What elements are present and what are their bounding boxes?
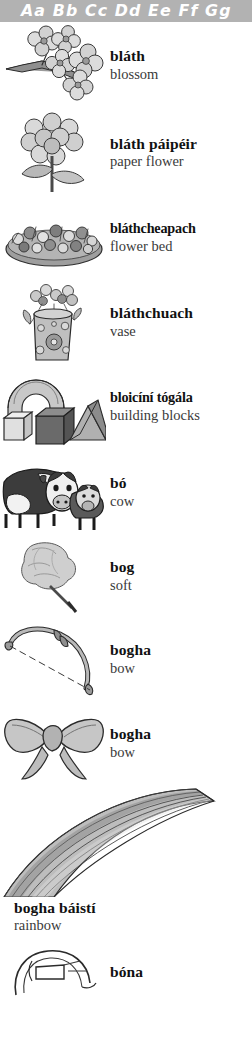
entry-blathcheapach: bláthcheapach flower bed: [0, 197, 252, 279]
entry-bo: bó cow: [0, 449, 252, 535]
cotton-wool-illustration: [0, 538, 108, 614]
flower-bed-illustration: [0, 203, 108, 273]
entry-text: bóna: [108, 937, 252, 980]
entry-term: bóna: [110, 963, 250, 980]
entry-term: bláthcheapach: [110, 221, 250, 237]
entry-text: bláth páipéir paper flower: [108, 135, 252, 170]
entry-text: bláthchuach vase: [108, 304, 252, 339]
blossom-branch-illustration: [0, 25, 108, 105]
entry-gloss: soft: [110, 577, 250, 594]
entry-bloicini-togala: bloicíní tógála building blocks: [0, 365, 252, 449]
entry-blathchuach: bláthchuach vase: [0, 279, 252, 365]
entry-gloss: flower bed: [110, 238, 250, 255]
alphabet-header: Aa Bb Cc Dd Ee Ff Gg: [0, 0, 252, 22]
entry-text: bog soft: [108, 558, 252, 593]
entry-gloss: vase: [110, 323, 250, 340]
paper-flower-illustration: [0, 110, 108, 196]
rainbow-illustration: [0, 785, 252, 897]
entry-term: bloicíní tógála: [110, 390, 250, 406]
entry-gloss: rainbow: [14, 917, 250, 934]
entry-term: bláthchuach: [110, 304, 250, 321]
entry-bogha-baisti: bogha báistí rainbow: [0, 785, 252, 937]
entry-blath-paipeir: bláth páipéir paper flower: [0, 108, 252, 197]
entry-gloss: blossom: [110, 66, 250, 83]
entry-bogha-archery: bogha bow: [0, 617, 252, 701]
entry-term: bogha: [110, 641, 250, 658]
entry-term: bogha: [110, 725, 250, 742]
entry-blath: bláth blossom: [0, 22, 252, 108]
entry-list: bláth blossom: [0, 22, 252, 997]
entry-term: bláth: [110, 47, 250, 64]
alphabet-letters: Aa Bb Cc Dd Ee Ff Gg: [21, 2, 232, 20]
vase-illustration: [0, 280, 108, 364]
entry-bona: bóna: [0, 937, 252, 997]
entry-text: bogha bow: [108, 641, 252, 676]
archery-bow-illustration: [0, 620, 108, 698]
entry-term: bó: [110, 474, 250, 491]
entry-gloss: bow: [110, 744, 250, 761]
building-blocks-illustration: [0, 368, 108, 446]
entry-term: bogha báistí: [14, 899, 250, 916]
entry-term: bláth páipéir: [110, 135, 250, 152]
entry-gloss: bow: [110, 660, 250, 677]
entry-bog: bog soft: [0, 535, 252, 617]
ribbon-bow-illustration: [0, 703, 108, 783]
entry-gloss: paper flower: [110, 153, 250, 170]
cow-illustration: [0, 452, 108, 532]
entry-text: bogha báistí rainbow: [0, 899, 252, 934]
entry-bogha-ribbon: bogha bow: [0, 701, 252, 785]
collar-illustration: [0, 937, 108, 997]
entry-text: bláth blossom: [108, 47, 252, 82]
entry-text: bó cow: [108, 474, 252, 509]
dictionary-page: Aa Bb Cc Dd Ee Ff Gg: [0, 0, 252, 1042]
entry-term: bog: [110, 558, 250, 575]
entry-text: bláthcheapach flower bed: [108, 221, 252, 255]
entry-text: bogha bow: [108, 725, 252, 760]
entry-text: bloicíní tógála building blocks: [108, 390, 252, 424]
entry-gloss: cow: [110, 493, 250, 510]
entry-gloss: building blocks: [110, 407, 250, 424]
